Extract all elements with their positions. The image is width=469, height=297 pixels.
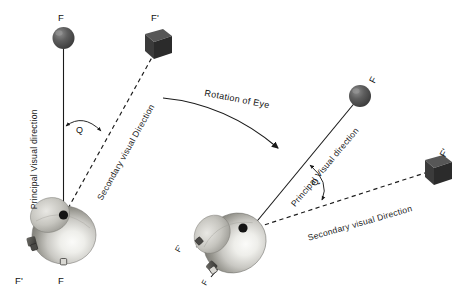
left-angle-arc (66, 121, 101, 131)
left-fovea-marker (60, 259, 66, 265)
right-target-sphere (349, 85, 371, 107)
left-peripheral-retina-label: F' (15, 276, 23, 286)
left-principal-visual-direction-label: Principal Visual direction (30, 104, 39, 214)
right-target-cube (425, 155, 452, 185)
left-peripheral-marker (30, 243, 38, 251)
diagram-svg (0, 0, 469, 297)
left-target-sphere (53, 27, 75, 49)
figure-canvas: F F' Principal Visual direction Secondar… (0, 0, 469, 297)
left-diagram-group (25, 27, 172, 265)
left-nodal-point (59, 210, 68, 219)
right-nodal-point (238, 223, 247, 232)
left-target-cube (145, 29, 172, 59)
left-sphere-target-label: F (58, 13, 64, 23)
left-angle-q-label: Q (76, 126, 83, 135)
right-eye-globe (179, 189, 278, 289)
left-fovea-retina-label: F (58, 276, 64, 286)
left-cube-target-label: F' (151, 13, 159, 23)
